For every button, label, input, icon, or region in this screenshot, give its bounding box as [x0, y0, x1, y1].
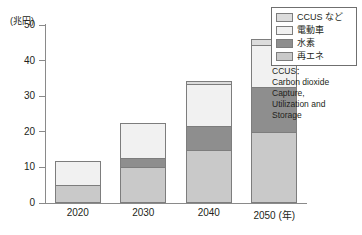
- x-tick-label: 2050 (年): [234, 207, 314, 222]
- legend-label-dendosha: 電動車: [297, 25, 324, 35]
- legend-label-suiso: 水素: [297, 38, 315, 48]
- bar-2020[interactable]: [55, 161, 101, 203]
- legend-swatch-ccus: [276, 13, 293, 22]
- bar-segment-再エネ: [251, 132, 297, 203]
- bar-2030[interactable]: [120, 123, 166, 203]
- bar-segment-電動車: [186, 84, 232, 127]
- plot-area: [45, 25, 307, 203]
- y-tick-label: 50: [5, 19, 35, 30]
- note-line-1: CCUS：: [272, 66, 357, 77]
- bar-segment-電動車: [120, 123, 166, 159]
- chart-root: (兆円) 01020304050 2020203020402050 (年) CC…: [0, 0, 362, 235]
- note-line-4: Utilization and: [272, 99, 357, 110]
- y-tick-label: 40: [5, 55, 35, 66]
- legend-item[interactable]: CCUS など: [276, 11, 352, 23]
- note-line-2: Carbon dioxide: [272, 77, 357, 88]
- x-axis-line: [45, 203, 307, 204]
- legend-swatch-reene: [276, 52, 293, 61]
- legend-label-ccus: CCUS など: [297, 12, 343, 22]
- bar-segment-再エネ: [186, 150, 232, 203]
- y-tick-label: 30: [5, 90, 35, 101]
- bar-segment-水素: [186, 126, 232, 151]
- legend-item[interactable]: 再エネ: [276, 50, 352, 62]
- note-line-3: Capture,: [272, 88, 357, 99]
- ccus-definition-note: CCUS： Carbon dioxide Capture, Utilizatio…: [271, 66, 357, 121]
- legend: CCUS など 電動車 水素 再エネ: [271, 7, 357, 66]
- legend-swatch-suiso: [276, 39, 293, 48]
- y-tick-label: 0: [5, 197, 35, 208]
- legend-item[interactable]: 水素: [276, 37, 352, 49]
- note-line-5: Storage: [272, 110, 357, 121]
- y-tick-label: 10: [5, 161, 35, 172]
- legend-swatch-dendosha: [276, 26, 293, 35]
- bar-segment-再エネ: [120, 167, 166, 203]
- bar-2040[interactable]: [186, 81, 232, 203]
- bar-segment-再エネ: [55, 185, 101, 203]
- legend-item[interactable]: 電動車: [276, 24, 352, 36]
- legend-label-reene: 再エネ: [297, 51, 324, 61]
- y-tick-label: 20: [5, 126, 35, 137]
- bar-segment-電動車: [55, 161, 101, 186]
